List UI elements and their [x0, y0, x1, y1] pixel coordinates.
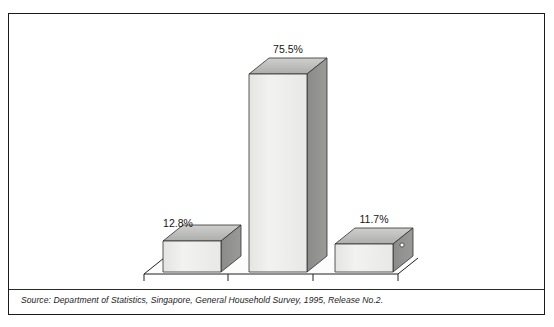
bar-none[interactable]	[163, 225, 241, 272]
data-label-two-or-more: 11.7%	[344, 213, 404, 225]
axis-ticks	[144, 274, 398, 281]
bar-side-marker-dot	[400, 243, 404, 247]
bar-two-or-more[interactable]	[335, 228, 413, 272]
data-label-none: 12.8%	[148, 217, 208, 229]
figure-container: 12.8% 75.5% 11.7% None 1 2 or more Sourc…	[0, 0, 554, 327]
chart-frame: 12.8% 75.5% 11.7% None 1 2 or more Sourc…	[8, 13, 545, 315]
source-note: Source: Department of Statistics, Singap…	[21, 295, 383, 305]
source-divider	[9, 289, 544, 290]
bar-one[interactable]	[249, 58, 327, 272]
data-label-one: 75.5%	[258, 43, 318, 55]
plot-area: 12.8% 75.5% 11.7% None 1 2 or more	[9, 14, 546, 282]
